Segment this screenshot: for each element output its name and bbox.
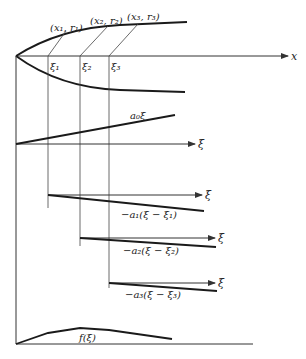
panel0-xi-label: ξ bbox=[198, 138, 205, 151]
characteristic-line-3 bbox=[109, 24, 138, 56]
xi1-label: ξ₁ bbox=[50, 61, 60, 72]
a0-line bbox=[16, 115, 175, 144]
xi2-label: ξ₂ bbox=[82, 61, 92, 72]
lower-contour-curve bbox=[16, 56, 185, 92]
xi3-label: ξ₃ bbox=[111, 61, 121, 72]
characteristic-line-1 bbox=[48, 31, 66, 56]
a1-term-label: −a₁(ξ − ξ₁) bbox=[121, 209, 177, 220]
point-label-2: (x₂, r₂) bbox=[90, 15, 123, 26]
point-label-1: (x₁, r₁) bbox=[50, 22, 83, 33]
x-axis-label: x bbox=[291, 50, 298, 63]
f-xi-label: f(ξ) bbox=[78, 332, 96, 343]
upper-contour-curve bbox=[16, 22, 187, 56]
diagram-canvas: x (x₁, r₁) (x₂, r₂) (x₃, r₃) ξ₁ ξ₂ ξ₃ a₀… bbox=[0, 0, 306, 359]
a2-term-label: −a₂(ξ − ξ₂) bbox=[123, 245, 179, 256]
point-label-3: (x₃, r₃) bbox=[127, 11, 160, 22]
panel3-xi-label: ξ bbox=[218, 277, 225, 290]
panel2-xi-label: ξ bbox=[218, 232, 225, 245]
a3-term-label: −a₃(ξ − ξ₃) bbox=[125, 289, 181, 300]
characteristic-line-2 bbox=[80, 26, 108, 56]
panel1-xi-label: ξ bbox=[205, 189, 212, 202]
a0-term-label: a₀ξ bbox=[130, 110, 146, 121]
